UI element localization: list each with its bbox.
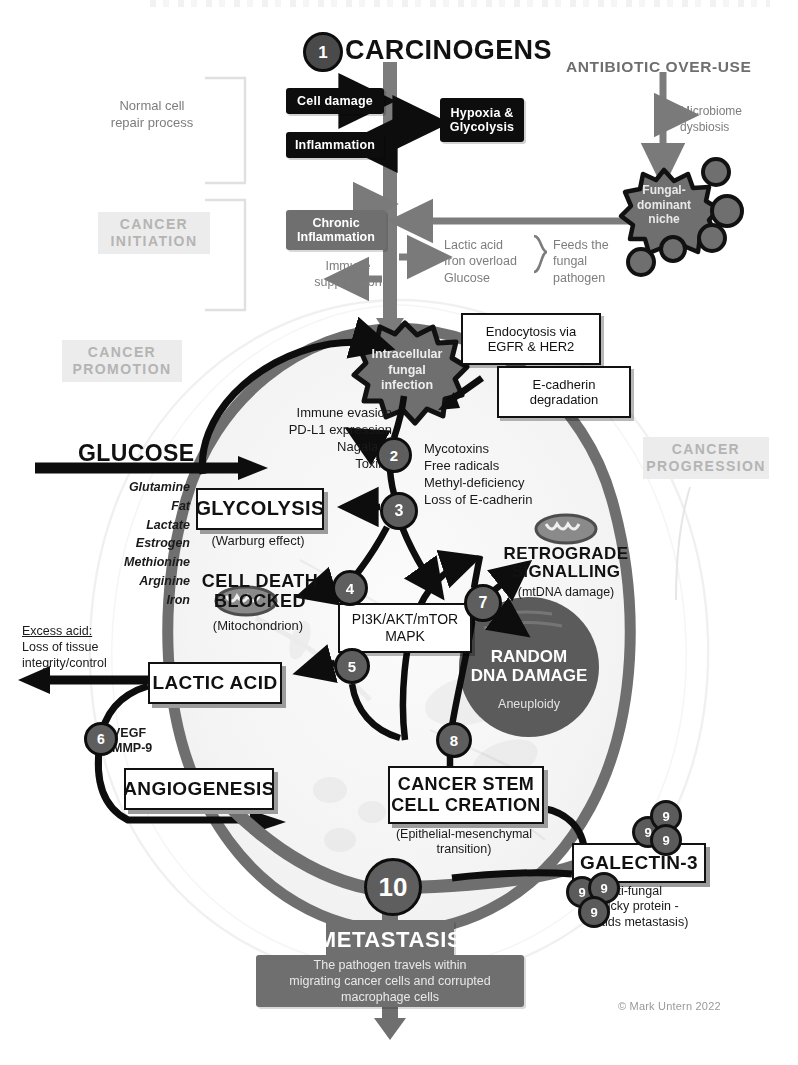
warburg-effect-label: (Warburg effect): [190, 533, 326, 549]
microbiome-dysbiosis-label: Microbiome dysbiosis: [680, 104, 776, 135]
mycotoxins-list: Mycotoxins Free radicals Methyl-deficien…: [424, 440, 600, 509]
angiogenesis-box: ANGIOGENESIS: [124, 768, 274, 810]
nutrient-item: Arginine: [60, 572, 190, 591]
cancer-progression-label: CANCER PROGRESSION: [643, 437, 769, 479]
cell-death-blocked-label: CELL DEATH BLOCKED: [198, 572, 322, 612]
step-node-7: 7: [464, 584, 502, 622]
emt-label: (Epithelial-mesenchymal transition): [378, 827, 550, 857]
ecadherin-arrow: [430, 368, 490, 418]
nutrient-item: Estrogen: [60, 534, 190, 553]
step-node-4: 4: [332, 570, 368, 606]
stage-brackets: [205, 78, 245, 310]
e-cadherin-degradation-box: E-cadherin degradation: [497, 366, 631, 418]
retrograde-signalling-label: RETROGRADE SIGNALLING: [492, 545, 640, 582]
inflammation-box: Inflammation: [286, 132, 384, 158]
step-node-10: 10: [364, 858, 422, 916]
nutrient-item: Lactate: [60, 516, 190, 535]
glycolysis-box: GLYCOLYSIS: [196, 488, 324, 530]
aneuploidy-label: Aneuploidy: [484, 697, 574, 711]
random-dna-damage-label: RANDOM DNA DAMAGE: [466, 648, 592, 685]
endocytosis-box: Endocytosis via EGFR & HER2: [461, 313, 601, 365]
step-node-6: 6: [84, 722, 118, 756]
nutrient-item: Fat: [60, 497, 190, 516]
feeds-the-pathogen-label: Feeds the fungal pathogen: [553, 237, 633, 286]
chronic-inflammation-box: Chronic Inflammation: [286, 210, 386, 250]
cancer-initiation-label: CANCER INITIATION: [98, 212, 210, 254]
step-node-3: 3: [380, 492, 418, 530]
step-node-2: 2: [376, 437, 412, 473]
mitochondrion-icon-2: [536, 515, 596, 543]
step-node-8: 8: [436, 722, 472, 758]
step-node-5: 5: [334, 648, 370, 684]
metastasis-note-box: The pathogen travels within migrating ca…: [256, 955, 524, 1007]
excess-acid-body: Loss of tissue integrity/control: [22, 640, 158, 671]
feeds-list-label: Lactic acid Iron overload Glucose: [444, 237, 542, 286]
cell-damage-box: Cell damage: [286, 88, 384, 114]
hypoxia-glycolysis-box: Hypoxia & Glycolysis: [440, 98, 524, 142]
excess-acid-title: Excess acid:: [22, 624, 152, 640]
step-node-1: 1: [303, 32, 343, 72]
nutrient-item: Methionine: [60, 553, 190, 572]
pi3k-akt-mtor-box: PI3K/AKT/mTOR MAPK: [338, 603, 472, 653]
galectin-bud: 9: [650, 824, 682, 856]
vegf-mmp9-label: VEGF MMP-9: [112, 726, 182, 756]
cancer-promotion-label: CANCER PROMOTION: [62, 340, 182, 382]
fungal-dominant-niche-label: Fungal- dominant niche: [625, 183, 703, 227]
nutrient-item: Glutamine: [60, 478, 190, 497]
diagram-canvas: 1 CARCINOGENS ANTIBIOTIC OVER-USE Cell d…: [0, 0, 798, 1065]
copyright-label: © Mark Untern 2022: [618, 1000, 721, 1012]
carcinogens-title: CARCINOGENS: [345, 35, 552, 66]
glucose-label: GLUCOSE: [78, 440, 195, 467]
mtdna-damage-label: (mtDNA damage): [492, 585, 640, 601]
cancer-stem-cell-box: CANCER STEM CELL CREATION: [388, 766, 544, 824]
immune-evasion-list: Immune evasion PD-L1 expression Nagalase…: [240, 404, 392, 473]
lactic-acid-box: LACTIC ACID: [148, 662, 282, 704]
immune-suppression-label: Immune suppression: [306, 258, 390, 291]
normal-repair-label: Normal cell repair process: [96, 98, 208, 132]
galectin-bud: 9: [578, 896, 610, 928]
mitochondrion-label: (Mitochondrion): [188, 618, 328, 634]
nutrient-list: Glutamine Fat Lactate Estrogen Methionin…: [60, 478, 190, 609]
metastasis-box: METASTASIS: [326, 920, 454, 960]
nutrient-item: Iron: [60, 591, 190, 610]
antibiotic-overuse-title: ANTIBIOTIC OVER-USE: [566, 58, 751, 76]
